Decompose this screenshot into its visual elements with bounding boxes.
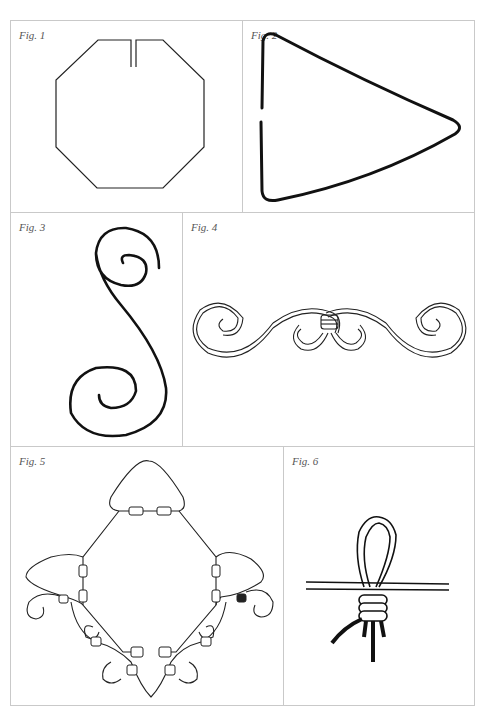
figure-panel-6: Fig. 6 <box>283 446 475 706</box>
s-scroll-icon <box>11 213 184 448</box>
figure-panel-4: Fig. 4 <box>182 212 475 447</box>
assembled-ornament-icon <box>11 447 285 707</box>
figure-panel-2: Fig. 2 <box>242 20 475 213</box>
octagon-frame-icon <box>11 21 244 214</box>
double-scroll-ornament-icon <box>183 213 476 448</box>
wire-knot-icon <box>284 447 476 707</box>
figure-panel-5: Fig. 5 <box>10 446 284 706</box>
figure-panel-3: Fig. 3 <box>10 212 183 447</box>
triangle-frame-icon <box>243 21 476 214</box>
figure-panel-1: Fig. 1 <box>10 20 243 213</box>
